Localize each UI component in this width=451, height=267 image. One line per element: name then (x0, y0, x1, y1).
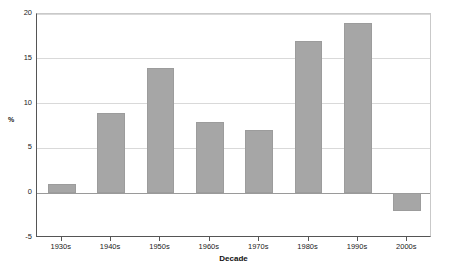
bar (48, 184, 76, 193)
x-axis-tick-label: 1960s (199, 242, 219, 251)
y-axis-tick-label: 20 (12, 9, 32, 17)
x-axis-tick (209, 237, 210, 241)
bar (97, 113, 125, 194)
x-axis-tick-label: 1970s (248, 242, 268, 251)
x-axis-tick (258, 237, 259, 241)
x-axis-tick (110, 237, 111, 241)
y-axis-tick-label: 0 (12, 188, 32, 196)
y-axis-tick-label: 15 (12, 54, 32, 62)
bar (245, 130, 273, 193)
bar (196, 122, 224, 194)
x-axis-tick (406, 237, 407, 241)
y-axis-tick-label: -5 (12, 233, 32, 241)
bar-chart: % -505101520 1930s1940s1950s1960s1970s19… (0, 0, 451, 267)
x-axis-tick (159, 237, 160, 241)
y-axis-tick-labels: -505101520 (10, 0, 32, 267)
y-axis-tick-label: 10 (12, 99, 32, 107)
x-axis-title: Decade (36, 254, 431, 264)
x-axis-tick (61, 237, 62, 241)
x-axis-tick (357, 237, 358, 241)
x-axis-tick-label: 1930s (50, 242, 70, 251)
x-axis-tick-label: 1980s (297, 242, 317, 251)
x-axis-tick-label: 2000s (396, 242, 416, 251)
bar (344, 23, 372, 193)
x-axis-tick (308, 237, 309, 241)
y-axis-tick-label: 5 (12, 143, 32, 151)
bar (147, 68, 175, 193)
plot-area (36, 13, 431, 237)
bar (393, 193, 421, 211)
x-axis-tick-label: 1950s (149, 242, 169, 251)
bar (295, 41, 323, 193)
x-axis-tick-label: 1990s (347, 242, 367, 251)
bar-series (37, 14, 430, 236)
x-axis-tick-label: 1940s (100, 242, 120, 251)
